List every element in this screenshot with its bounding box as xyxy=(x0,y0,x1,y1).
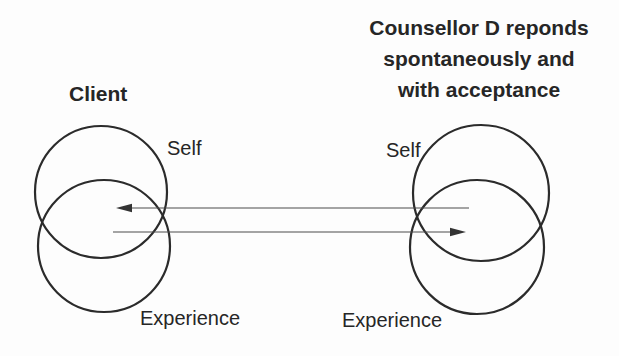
counsellor-title: Counsellor D reponds spontaneously and w… xyxy=(358,12,600,105)
counsellor-title-line-3: with acceptance xyxy=(358,74,600,105)
counsellor-self-label: Self xyxy=(386,139,420,161)
client-experience-label: Experience xyxy=(140,307,240,329)
client-experience-circle xyxy=(38,180,170,312)
client-title: Client xyxy=(69,78,127,109)
client-self-label: Self xyxy=(167,137,201,159)
figure-canvas: Client Counsellor D reponds spontaneousl… xyxy=(0,0,619,356)
counsellor-title-line-2: spontaneously and xyxy=(358,43,600,74)
counsellor-experience-label: Experience xyxy=(342,309,442,331)
arrowhead-right-icon xyxy=(450,228,466,236)
counsellor-title-line-1: Counsellor D reponds xyxy=(358,12,600,43)
arrowhead-left-icon xyxy=(116,204,132,212)
client-self-circle xyxy=(35,126,167,258)
counsellor-self-circle xyxy=(413,125,549,261)
